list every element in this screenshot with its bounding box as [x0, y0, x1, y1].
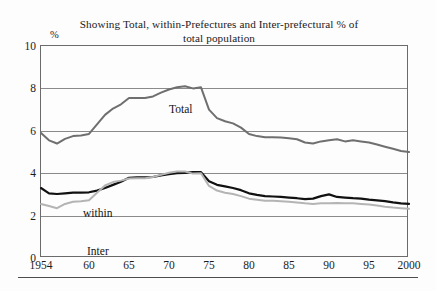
series-overlay	[41, 46, 409, 258]
bottom-divider	[18, 277, 418, 278]
x-tick-95: 95	[363, 259, 375, 271]
x-tick-85: 85	[283, 259, 295, 271]
x-tick-80: 80	[243, 259, 255, 271]
x-tick-60: 60	[83, 259, 95, 271]
y-tick-6: 6	[30, 125, 36, 137]
x-tick-1954: 1954	[30, 259, 53, 271]
series-label-within: within	[83, 207, 112, 219]
plot-area: 0246810 195460657075808590952000 Total w…	[40, 45, 408, 257]
series-label-total: Total	[169, 103, 192, 115]
x-tick-65: 65	[123, 259, 135, 271]
y-tick-2: 2	[30, 210, 36, 222]
chart-title: Showing Total, within-Prefectures and In…	[58, 18, 380, 45]
x-tick-2000: 2000	[398, 259, 421, 271]
y-tick-4: 4	[30, 167, 36, 179]
chart-title-line-2: total population	[58, 32, 380, 46]
y-axis-unit-label: %	[50, 29, 59, 40]
y-tick-8: 8	[30, 82, 36, 94]
chart-figure: Showing Total, within-Prefectures and In…	[0, 0, 436, 291]
x-tick-75: 75	[203, 259, 215, 271]
series-label-inter: Inter	[87, 245, 109, 257]
chart-title-line-1: Showing Total, within-Prefectures and In…	[58, 18, 380, 32]
series-line-total	[41, 86, 409, 152]
y-tick-10: 10	[25, 40, 37, 52]
x-tick-70: 70	[163, 259, 175, 271]
x-tick-90: 90	[323, 259, 335, 271]
series-line-within	[41, 172, 409, 204]
